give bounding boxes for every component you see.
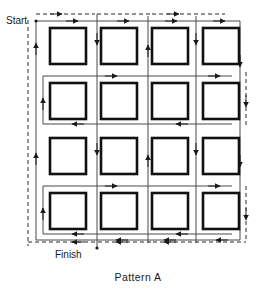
square-r2c1 <box>50 83 86 119</box>
square-r1c2 <box>101 28 137 64</box>
square-r3c4 <box>203 138 239 174</box>
square-r1c1 <box>50 28 86 64</box>
square-r4c3 <box>152 193 188 229</box>
start-point-marker <box>34 19 37 22</box>
square-r2c3 <box>152 83 188 119</box>
square-r3c3 <box>152 138 188 174</box>
square-r4c4 <box>203 193 239 229</box>
finish-point-marker <box>95 246 98 249</box>
square-r1c3 <box>152 28 188 64</box>
finish-label: Finish <box>55 249 82 260</box>
square-r1c4 <box>203 28 239 64</box>
square-r3c2 <box>101 138 137 174</box>
figure-caption: Pattern A <box>115 271 162 283</box>
square-r4c1 <box>50 193 86 229</box>
square-r2c2 <box>101 83 137 119</box>
square-r4c2 <box>101 193 137 229</box>
start-label: Start <box>6 15 27 26</box>
square-r2c4 <box>203 83 239 119</box>
square-r3c1 <box>50 138 86 174</box>
pattern-diagram: Start Finish Pattern A <box>0 0 276 290</box>
